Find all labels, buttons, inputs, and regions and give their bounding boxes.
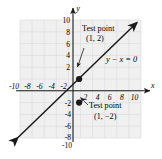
coordinate-plane-figure: -10 -8 -6 -4 -2 2 4 6 8 10 10 8 6 4 2 -2… xyxy=(0,0,162,159)
test-point-lower xyxy=(76,100,82,106)
x-tick: 2 xyxy=(84,93,88,102)
x-tick: -8 xyxy=(24,82,31,91)
y-tick: -2 xyxy=(65,99,72,108)
y-tick: -10 xyxy=(62,141,72,150)
x-tick: -10 xyxy=(9,82,19,91)
x-axis-label: x xyxy=(150,81,155,90)
y-tick: 6 xyxy=(66,40,70,49)
y-tick: -4 xyxy=(65,110,72,119)
callout-upper-coords: (1, 2) xyxy=(86,34,104,43)
callout-lower-coords: (1, −2) xyxy=(94,112,117,121)
x-tick: -4 xyxy=(48,82,55,91)
y-tick: 8 xyxy=(66,28,70,37)
graph-svg: -10 -8 -6 -4 -2 2 4 6 8 10 10 8 6 4 2 -2… xyxy=(0,0,162,159)
y-axis-label: y xyxy=(75,4,80,13)
callout-upper-title: Test point xyxy=(82,24,115,33)
y-tick: -6 xyxy=(65,122,72,131)
equation-label: y − x = 0 xyxy=(105,55,138,64)
y-tick: 2 xyxy=(66,63,70,72)
y-tick: 10 xyxy=(62,16,70,25)
callout-lower-title: Test point xyxy=(89,101,122,110)
y-tick: 4 xyxy=(66,51,70,60)
x-tick: -2 xyxy=(61,82,68,91)
test-point-upper xyxy=(76,76,82,82)
x-tick: 10 xyxy=(131,93,139,102)
x-tick: -6 xyxy=(36,82,43,91)
